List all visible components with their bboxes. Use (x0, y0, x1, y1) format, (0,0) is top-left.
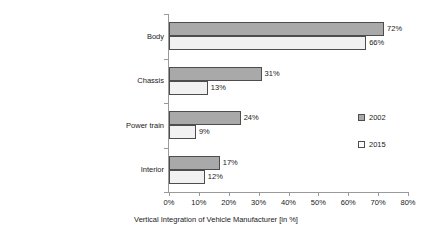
value-axis-tick (408, 193, 409, 196)
value-axis-tick (378, 193, 379, 196)
bar-value-body-2015: 66% (369, 36, 384, 50)
category-axis-tick (164, 59, 168, 60)
value-axis-tick (229, 193, 230, 196)
value-axis-tick (348, 193, 349, 196)
legend-label-2015: 2015 (369, 139, 386, 150)
category-label-interior: Interior (4, 165, 164, 174)
bar-chassis-2015 (169, 81, 208, 95)
bar-power-train-2002 (169, 111, 241, 125)
category-label-slot: Chassis (0, 76, 164, 85)
value-axis-tick (289, 193, 290, 196)
bar-value-interior-2015: 12% (208, 170, 223, 184)
value-axis-tick (318, 193, 319, 196)
bar-value-power-train-2002: 24% (244, 111, 259, 125)
bar-value-chassis-2015: 13% (211, 81, 226, 95)
value-axis-tick (259, 193, 260, 196)
bar-value-interior-2002: 17% (223, 156, 238, 170)
bar-body-2002 (169, 22, 384, 36)
value-axis-tick (199, 193, 200, 196)
bar-chassis-2002 (169, 67, 262, 81)
bar-body-2015 (169, 36, 366, 50)
category-label-power-train: Power train (4, 121, 164, 130)
bar-power-train-2015 (169, 125, 196, 139)
category-label-slot: Interior (0, 165, 164, 174)
category-label-slot: Power train (0, 121, 164, 130)
legend-swatch-icon-2015 (358, 141, 365, 148)
category-label-slot: Body (0, 32, 164, 41)
bar-value-chassis-2002: 31% (265, 67, 280, 81)
value-axis-tick-label: 80% (388, 198, 428, 207)
category-axis-tick (164, 148, 168, 149)
legend-label-2002: 2002 (369, 112, 386, 123)
plot-area: 72%66%31%13%24%9%17%12% (169, 14, 408, 192)
bar-interior-2015 (169, 170, 205, 184)
legend-swatch-icon-2002 (358, 114, 365, 121)
bar-value-body-2002: 72% (387, 22, 402, 36)
bar-chart: BodyChassisPower trainInterior 72%66%31%… (0, 0, 432, 237)
category-label-chassis: Chassis (4, 76, 164, 85)
category-label-body: Body (4, 32, 164, 41)
x-axis-title: Vertical Integration of Vehicle Manufact… (0, 215, 432, 225)
category-axis-tick (164, 14, 168, 15)
value-axis-tick (169, 193, 170, 196)
category-axis-tick (164, 103, 168, 104)
category-axis-tick (164, 192, 168, 193)
bar-interior-2002 (169, 156, 220, 170)
bar-value-power-train-2015: 9% (199, 125, 210, 139)
